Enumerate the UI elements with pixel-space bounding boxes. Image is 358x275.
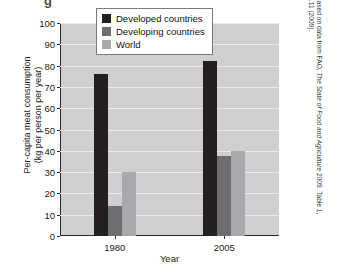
- y-tick-label: 70: [44, 81, 55, 92]
- figure-container: g Per-capita meat consumption (kg per pe…: [0, 0, 358, 275]
- y-tick-mark: [57, 66, 60, 67]
- y-tick-mark: [57, 172, 60, 173]
- legend-label-world: World: [116, 39, 141, 50]
- y-tick-mark: [57, 87, 60, 88]
- y-tick-label: 20: [44, 188, 55, 199]
- y-axis-title-line2: (kg per person per year): [33, 20, 44, 210]
- y-axis-title: Per-capita meat consumption (kg per pers…: [22, 20, 44, 210]
- credit-prefix: Based on data from FAO,: [316, 0, 323, 72]
- legend-item: Developed countries: [102, 12, 205, 25]
- credit-title: The State of Food and Agriculture: [316, 72, 323, 171]
- y-tick-label: 10: [44, 209, 55, 220]
- gridline: [60, 66, 279, 67]
- y-tick-label: 30: [44, 167, 55, 178]
- y-tick-mark: [57, 151, 60, 152]
- legend: Developed countries Developing countries…: [96, 8, 213, 55]
- y-tick-label: 60: [44, 103, 55, 114]
- legend-swatch-developing: [102, 27, 111, 36]
- source-credit: Based on data from FAO, The State of Foo…: [307, 0, 323, 228]
- y-tick-label: 50: [44, 124, 55, 135]
- bar: [94, 74, 108, 236]
- x-tick-mark: [224, 236, 225, 239]
- legend-item: Developing countries: [102, 25, 205, 38]
- bar: [217, 156, 231, 236]
- bar: [231, 151, 245, 236]
- y-tick-mark: [57, 236, 60, 237]
- y-tick-label: 90: [44, 39, 55, 50]
- caption-glyph: g: [44, 0, 52, 8]
- y-tick-mark: [57, 108, 60, 109]
- y-tick-mark: [57, 215, 60, 216]
- y-tick-mark: [57, 23, 60, 24]
- bar-group: [94, 74, 136, 236]
- bar: [122, 172, 136, 236]
- y-tick-label: 80: [44, 60, 55, 71]
- y-tick-mark: [57, 193, 60, 194]
- legend-swatch-developed: [102, 14, 111, 23]
- legend-label-developed: Developed countries: [116, 13, 203, 24]
- legend-item: World: [102, 38, 205, 51]
- legend-label-developing: Developing countries: [116, 26, 205, 37]
- y-tick-label: 100: [39, 18, 55, 29]
- y-tick-label: 40: [44, 145, 55, 156]
- bar-group: [203, 61, 245, 236]
- x-tick-mark: [115, 236, 116, 239]
- y-axis-title-line1: Per-capita meat consumption: [22, 56, 32, 173]
- y-tick-label: 0: [50, 231, 55, 242]
- legend-swatch-world: [102, 40, 111, 49]
- bar: [108, 206, 122, 236]
- x-tick-label: 1980: [104, 242, 125, 253]
- y-tick-mark: [57, 44, 60, 45]
- y-tick-mark: [57, 130, 60, 131]
- x-axis-title: Year: [60, 253, 279, 264]
- bar: [203, 61, 217, 236]
- x-tick-label: 2005: [214, 242, 235, 253]
